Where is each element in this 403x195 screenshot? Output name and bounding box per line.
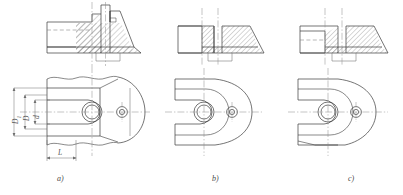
section-c-hatch-right xyxy=(346,26,382,47)
dimension-label-D: D xyxy=(22,116,31,121)
figure-b xyxy=(165,8,264,156)
figure-c-section-view xyxy=(300,8,388,66)
section-hatch-base xyxy=(76,47,141,53)
section-c-lower-projection xyxy=(332,53,356,61)
section-left-block-outline xyxy=(47,22,76,47)
figure-caption-a: a) xyxy=(57,174,64,183)
figure-a xyxy=(13,2,150,161)
section-c-hatch-base xyxy=(325,47,388,53)
dimension-label-D1: D1 xyxy=(11,116,22,124)
section-b-hatch-right xyxy=(222,26,258,47)
break-line-bottom xyxy=(47,142,118,145)
figure-caption-c: c) xyxy=(348,174,354,183)
figure-b-section-view xyxy=(178,8,264,66)
plan-c-chamfer-bottom xyxy=(298,141,315,145)
plan-corner-top xyxy=(100,79,118,88)
engineering-drawing-canvas xyxy=(0,0,403,195)
figure-c xyxy=(288,8,388,156)
figure-b-plan-view xyxy=(165,68,262,156)
figure-a-plan-view xyxy=(13,66,150,161)
figure-caption-b: b) xyxy=(212,174,219,183)
figure-c-plan-view xyxy=(288,68,388,156)
break-line-top xyxy=(47,76,118,79)
figure-a-section-view xyxy=(47,2,141,66)
section-b-hatch-base xyxy=(202,47,264,53)
section-b-left-block xyxy=(178,26,202,53)
plan-corner-bottom xyxy=(100,136,118,142)
dimension-label-L: L xyxy=(58,148,62,157)
section-b-lower-projection xyxy=(208,53,232,61)
dimension-label-d: d xyxy=(32,115,41,119)
lower-projection-box xyxy=(96,53,120,61)
section-c-left-block-outline xyxy=(300,26,325,53)
